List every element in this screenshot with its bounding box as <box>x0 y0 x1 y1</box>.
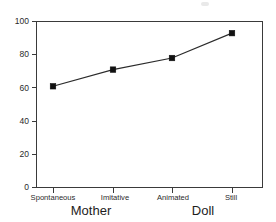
y-tick-label-60: 60 <box>20 83 30 93</box>
y-tick-marks <box>32 22 37 188</box>
line-chart: 100 80 60 40 20 0 Spontaneous Imitative … <box>0 0 276 222</box>
group-label-mother: Mother <box>71 203 112 218</box>
x-tick-label-imitative: Imitative <box>101 193 129 202</box>
y-tick-label-0: 0 <box>24 182 29 192</box>
y-tick-labels: 100 80 60 40 20 0 <box>15 16 29 192</box>
x-group-labels: Mother Doll <box>71 203 215 218</box>
y-tick-label-100: 100 <box>15 16 29 26</box>
data-point-imitative <box>110 67 116 73</box>
y-tick-label-80: 80 <box>20 49 30 59</box>
series-line <box>53 33 232 86</box>
data-point-still <box>229 30 235 36</box>
scan-artifact <box>201 2 209 6</box>
y-tick-label-40: 40 <box>20 116 30 126</box>
group-label-doll: Doll <box>192 203 215 218</box>
chart-canvas: 100 80 60 40 20 0 Spontaneous Imitative … <box>0 0 276 222</box>
axis-frame <box>37 22 263 188</box>
x-tick-label-still: Still <box>225 193 238 202</box>
x-tick-label-spontaneous: Spontaneous <box>31 193 76 202</box>
x-tick-label-animated: Animated <box>157 193 189 202</box>
series-markers <box>50 30 235 89</box>
x-tick-labels: Spontaneous Imitative Animated Still <box>31 193 238 202</box>
y-tick-label-20: 20 <box>20 149 30 159</box>
x-tick-marks <box>53 188 232 193</box>
data-point-spontaneous <box>50 83 56 89</box>
data-point-animated <box>169 55 175 61</box>
